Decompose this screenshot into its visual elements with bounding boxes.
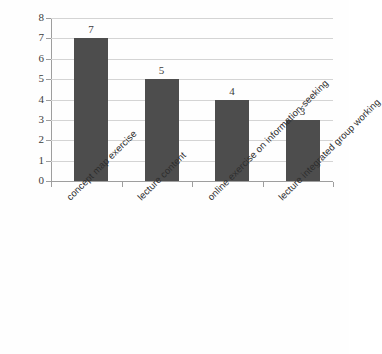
bar-value-label: 4 [203, 86, 261, 97]
x-axis-tick [263, 182, 264, 187]
y-axis-tick-label: 4 [26, 94, 44, 105]
y-axis-tick-label: 3 [26, 114, 44, 125]
y-axis-tick-label: 1 [26, 155, 44, 166]
bar-value-label: 7 [62, 24, 120, 35]
plot-area [51, 18, 333, 181]
y-axis-tick-label: 2 [26, 134, 44, 145]
gridline [51, 18, 333, 19]
y-axis-tick-label: 5 [26, 73, 44, 84]
y-axis-tick-label: 0 [26, 175, 44, 186]
x-axis-tick [192, 182, 193, 187]
x-axis-tick [51, 182, 52, 187]
bar-value-label: 5 [133, 65, 191, 76]
y-axis-tick-label: 8 [26, 12, 44, 23]
y-axis-tick-label: 6 [26, 53, 44, 64]
x-axis-tick [122, 182, 123, 187]
y-axis-tick-label: 7 [26, 32, 44, 43]
x-axis-tick [333, 182, 334, 187]
